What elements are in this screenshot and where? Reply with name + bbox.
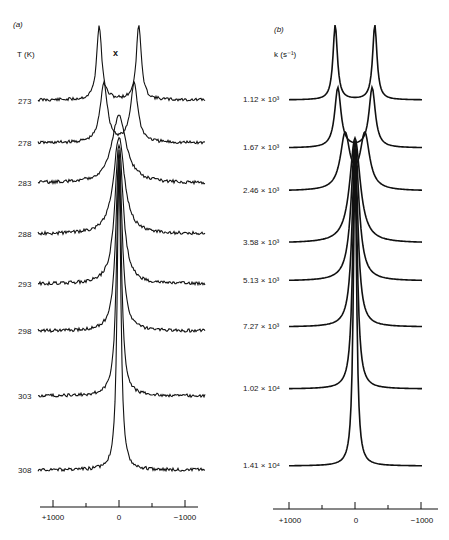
spectrum-trace [289,161,422,466]
series-label-k3: 2.46 × 10³ [243,186,279,195]
x-tick-label-plus1000: +1000 [279,516,301,525]
x-tick-label-minus1000: −1000 [174,513,196,522]
series-label-298: 298 [18,327,31,336]
spectrum-trace [38,81,205,143]
series-label-k6: 7.27 × 10³ [243,322,279,331]
series-label-k7: 1.02 × 10⁴ [243,384,280,393]
series-label-278: 278 [18,139,31,148]
series-label-288: 288 [18,230,31,239]
series-label-303: 303 [18,392,31,401]
panel-a-spectra-plot [0,0,225,540]
series-label-k2: 1.67 × 10³ [243,143,279,152]
series-label-k5: 5.13 × 10³ [243,276,279,285]
spectrum-trace [289,25,422,100]
series-label-k1: 1.12 × 10³ [243,95,279,104]
x-tick-label-0: 0 [117,513,121,522]
series-label-293: 293 [18,280,31,289]
series-label-k4: 3.58 × 10³ [243,238,279,247]
impurity-annotation: x [113,48,118,58]
panel-b-tag: (b) [274,25,284,34]
panel-b-simulated: (b) k (s⁻¹) 1.12 × 10³ 1.67 × 10³ 2.46 ×… [225,0,449,540]
x-tick-label-minus1000: −1000 [411,516,433,525]
panel-a-experimental: (a) T (K) x 273 278 283 288 293 298 303 … [0,0,225,540]
series-label-308: 308 [18,466,31,475]
temperature-axis-title: T (K) [17,50,35,59]
x-tick-label-plus1000: +1000 [42,513,64,522]
panel-a-tag: (a) [13,20,23,29]
x-tick-label-0: 0 [354,516,358,525]
panel-b-spectra-plot [225,0,449,540]
spectrum-trace [38,25,205,101]
series-label-283: 283 [18,179,31,188]
series-label-k8: 1.41 × 10⁴ [243,461,280,470]
rate-constant-axis-title: k (s⁻¹) [274,50,296,59]
series-label-273: 273 [18,97,31,106]
